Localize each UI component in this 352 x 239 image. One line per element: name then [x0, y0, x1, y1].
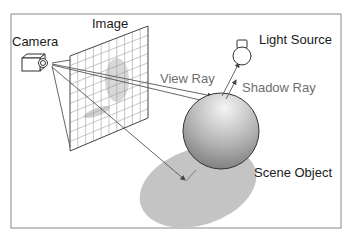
image-label: Image — [92, 17, 128, 30]
shadow-ray-label: Shadow Ray — [242, 81, 316, 94]
view-ray-label: View Ray — [160, 72, 215, 85]
light-bulb-icon — [233, 40, 251, 65]
ray-tracing-diagram: Camera Image Light Source View Ray Shado… — [0, 0, 352, 239]
light-source-label: Light Source — [259, 33, 332, 46]
scene-object-sphere — [183, 93, 259, 169]
camera-label: Camera — [12, 35, 58, 48]
scene-object-label: Scene Object — [254, 166, 332, 179]
camera-icon — [22, 54, 48, 71]
image-plane — [70, 0, 148, 239]
